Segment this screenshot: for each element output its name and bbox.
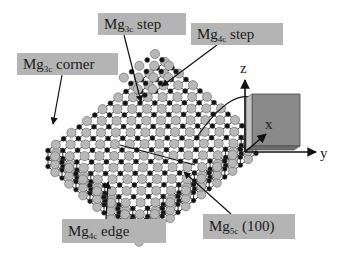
label-base: Mg [197, 26, 218, 42]
coordinate-axes [245, 80, 316, 152]
label-base: Mg [23, 56, 44, 72]
label-suffix: (100) [238, 218, 274, 234]
label-mg4c-edge: Mg4c edge [62, 219, 166, 243]
label-mg4c-step: Mg4c step [191, 23, 283, 45]
label-mg5c-100: Mg5c (100) [203, 214, 295, 239]
axis-label-y: y [320, 145, 328, 162]
label-mg3c-corner: Mg3c corner [17, 53, 118, 75]
label-suffix: step [133, 16, 161, 32]
axis-label-x: x [265, 116, 273, 133]
axis-label-z: z [240, 60, 247, 77]
label-suffix: step [226, 26, 254, 42]
label-base: Mg [104, 16, 125, 32]
label-suffix: edge [97, 223, 129, 239]
label-base: Mg [68, 223, 89, 239]
label-base: Mg [209, 218, 230, 234]
label-suffix: corner [52, 56, 94, 72]
label-mg3c-step: Mg3c step [98, 13, 186, 35]
